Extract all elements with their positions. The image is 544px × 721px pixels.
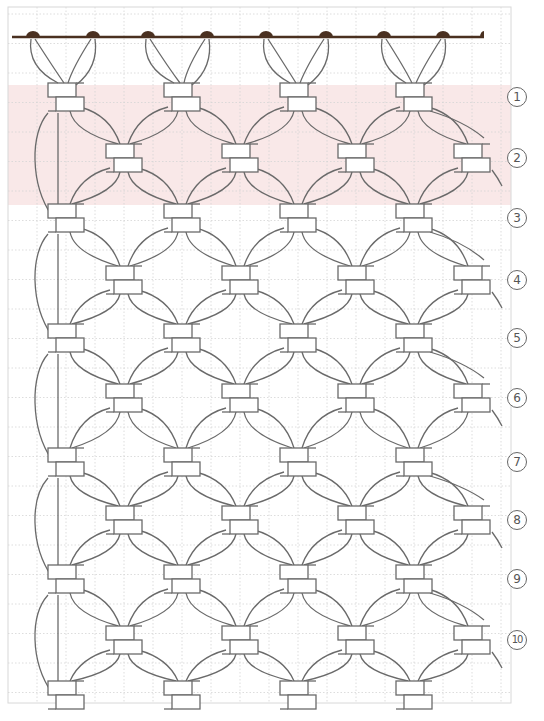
square-knot-upper xyxy=(222,506,250,520)
square-knot-lower xyxy=(230,640,258,654)
square-knot-upper xyxy=(396,565,424,579)
square-knot-lower xyxy=(172,462,200,476)
square-knot-upper xyxy=(454,266,482,280)
cord xyxy=(70,408,110,448)
square-knot-upper xyxy=(48,681,76,695)
square-knot-upper xyxy=(222,266,250,280)
square-knot-upper xyxy=(106,384,134,398)
row-number-label: 10 xyxy=(507,630,527,650)
square-knot-upper xyxy=(164,204,192,218)
square-knot-upper xyxy=(280,324,308,338)
square-knot-upper xyxy=(48,324,76,338)
square-knot-lower xyxy=(172,97,200,111)
square-knot-lower xyxy=(288,338,316,352)
square-knot-lower xyxy=(230,158,258,172)
square-knot-lower xyxy=(172,338,200,352)
square-knot-upper xyxy=(454,384,482,398)
square-knot-upper xyxy=(396,83,424,97)
cord xyxy=(300,39,324,83)
square-knot-lower xyxy=(288,695,316,709)
square-knot-upper xyxy=(396,204,424,218)
row-number-label: 2 xyxy=(507,148,527,168)
lark-head-knot xyxy=(259,31,273,37)
edge-loop xyxy=(35,595,52,693)
square-knot-lower xyxy=(230,280,258,294)
row-number-label: 5 xyxy=(507,328,527,348)
square-knot-upper xyxy=(164,681,192,695)
square-knot-lower xyxy=(346,280,374,294)
square-knot-upper xyxy=(164,324,192,338)
edge-loop xyxy=(35,234,52,336)
square-knot-lower xyxy=(462,520,490,534)
square-knot-upper xyxy=(48,448,76,462)
square-knot-upper xyxy=(48,204,76,218)
square-knot-lower xyxy=(288,97,316,111)
square-knot-upper xyxy=(222,384,250,398)
square-knot-upper xyxy=(106,626,134,640)
square-knot-lower xyxy=(56,338,84,352)
square-knot-upper xyxy=(106,144,134,158)
square-knot-upper xyxy=(396,448,424,462)
square-knot-upper xyxy=(48,565,76,579)
cord xyxy=(492,292,502,308)
square-knot-lower xyxy=(230,398,258,412)
square-knot-lower xyxy=(114,640,142,654)
cord xyxy=(254,408,294,448)
square-knot-lower xyxy=(172,579,200,593)
row-number-label: 3 xyxy=(507,208,527,228)
lark-head-knot xyxy=(86,31,100,37)
square-knot-lower xyxy=(404,695,432,709)
square-knot-upper xyxy=(106,266,134,280)
square-knot-upper xyxy=(338,506,366,520)
square-knot-lower xyxy=(172,218,200,232)
square-knot-lower xyxy=(346,158,374,172)
cord xyxy=(370,408,410,448)
square-knot-lower xyxy=(56,695,84,709)
square-knot-upper xyxy=(454,144,482,158)
square-knot-lower xyxy=(56,579,84,593)
lark-head-knot xyxy=(377,31,391,37)
square-knot-lower xyxy=(288,218,316,232)
square-knot-upper xyxy=(164,448,192,462)
square-knot-lower xyxy=(404,579,432,593)
square-knot-lower xyxy=(346,520,374,534)
square-knot-upper xyxy=(454,506,482,520)
cord xyxy=(184,39,205,83)
cord xyxy=(35,39,64,83)
square-knot-upper xyxy=(164,83,192,97)
cord xyxy=(138,408,178,448)
square-knot-lower xyxy=(56,462,84,476)
square-knot-upper xyxy=(280,565,308,579)
square-knot-lower xyxy=(56,218,84,232)
cord xyxy=(386,39,412,83)
square-knot-upper xyxy=(222,144,250,158)
square-knot-upper xyxy=(280,681,308,695)
square-knot-lower xyxy=(346,398,374,412)
square-knot-lower xyxy=(288,462,316,476)
cord xyxy=(31,39,58,83)
square-knot-upper xyxy=(164,565,192,579)
square-knot-lower xyxy=(462,640,490,654)
square-knot-lower xyxy=(462,158,490,172)
square-knot-lower xyxy=(404,97,432,111)
square-knot-upper xyxy=(396,324,424,338)
cord xyxy=(416,39,441,83)
square-knot-lower xyxy=(56,97,84,111)
cord xyxy=(76,39,96,85)
lark-head-knot-partial xyxy=(480,31,484,37)
square-knot-lower xyxy=(462,398,490,412)
square-knot-upper xyxy=(280,83,308,97)
lark-head-knot xyxy=(200,31,214,37)
lark-head-knot xyxy=(319,31,333,37)
cord xyxy=(264,39,290,83)
row-number-label: 7 xyxy=(507,452,527,472)
cord xyxy=(492,410,502,426)
square-knot-lower xyxy=(404,338,432,352)
edge-loop xyxy=(35,354,52,460)
cord xyxy=(308,39,329,85)
square-knot-lower xyxy=(114,398,142,412)
cord xyxy=(146,39,174,83)
square-knot-upper xyxy=(338,144,366,158)
square-knot-upper xyxy=(396,681,424,695)
square-knot-upper xyxy=(222,626,250,640)
